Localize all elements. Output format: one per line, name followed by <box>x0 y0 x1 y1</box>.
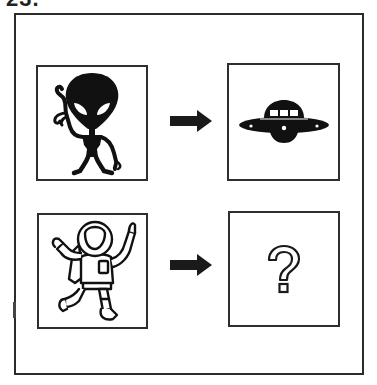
answer-panel[interactable]: ? <box>228 211 340 327</box>
ufo-icon <box>238 100 330 144</box>
alien-panel <box>36 65 148 181</box>
question-number: 23. <box>6 0 40 12</box>
margin-mark <box>13 302 16 318</box>
right-arrow-icon <box>170 110 212 132</box>
astronaut-panel <box>37 213 148 329</box>
ufo-panel <box>227 63 340 181</box>
astronaut-icon <box>43 217 143 325</box>
question-mark-icon <box>264 244 304 294</box>
alien-icon <box>42 69 142 177</box>
right-arrow-icon <box>170 254 212 276</box>
